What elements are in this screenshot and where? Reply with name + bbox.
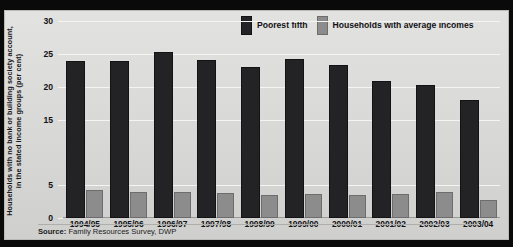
bar-group xyxy=(194,21,238,218)
bar-group xyxy=(456,21,500,218)
y-axis-tick-label: 0 xyxy=(27,213,53,223)
bar-average-incomes[interactable] xyxy=(217,193,234,218)
chart-plate: Households with no bank or building soci… xyxy=(4,10,509,240)
y-axis-tick-label: 25 xyxy=(27,49,53,59)
bar-group xyxy=(282,21,326,218)
bar-group xyxy=(63,21,107,218)
bar-poorest-fifth[interactable] xyxy=(460,100,479,218)
bar-group xyxy=(107,21,151,218)
bar-poorest-fifth[interactable] xyxy=(329,65,348,218)
chart-inner: Households with no bank or building soci… xyxy=(5,11,508,239)
bar-average-incomes[interactable] xyxy=(174,192,191,218)
source-divider xyxy=(38,224,478,225)
bar-poorest-fifth[interactable] xyxy=(241,67,260,218)
bar-average-incomes[interactable] xyxy=(436,192,453,218)
bar-average-incomes[interactable] xyxy=(86,190,103,218)
bar-poorest-fifth[interactable] xyxy=(197,60,216,218)
bar-group xyxy=(325,21,369,218)
plot-area: 0515202530 xyxy=(63,21,500,218)
bar-average-incomes[interactable] xyxy=(480,200,497,218)
source-label: Source: xyxy=(38,227,66,236)
chart-figure: Households with no bank or building soci… xyxy=(0,0,513,247)
bar-group xyxy=(238,21,282,218)
bar-average-incomes[interactable] xyxy=(349,195,366,218)
bar-average-incomes[interactable] xyxy=(130,192,147,218)
bar-poorest-fifth[interactable] xyxy=(154,52,173,218)
y-axis-tick-label: 20 xyxy=(27,82,53,92)
bar-poorest-fifth[interactable] xyxy=(285,59,304,218)
y-axis-tick-label: 15 xyxy=(27,115,53,125)
bar-group xyxy=(413,21,457,218)
source-value: Family Resources Survey, DWP xyxy=(66,227,176,236)
bar-average-incomes[interactable] xyxy=(305,194,322,218)
bar-average-incomes[interactable] xyxy=(392,194,409,218)
bar-poorest-fifth[interactable] xyxy=(416,85,435,218)
bar-group xyxy=(369,21,413,218)
bar-series-container xyxy=(63,21,500,218)
bar-poorest-fifth[interactable] xyxy=(110,61,129,218)
bar-average-incomes[interactable] xyxy=(261,195,278,218)
y-axis-tick-label: 30 xyxy=(27,16,53,26)
y-axis-tick-label: 5 xyxy=(27,180,53,190)
source-note: Source: Family Resources Survey, DWP xyxy=(38,227,176,236)
bar-poorest-fifth[interactable] xyxy=(66,61,85,218)
bar-group xyxy=(150,21,194,218)
bar-poorest-fifth[interactable] xyxy=(372,81,391,218)
